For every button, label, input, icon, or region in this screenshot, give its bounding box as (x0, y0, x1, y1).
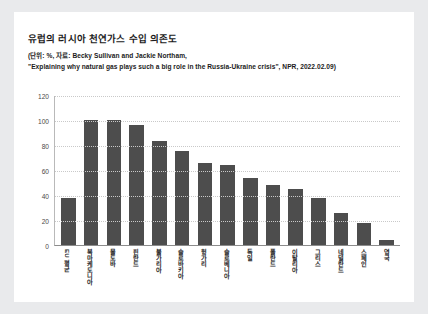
gridline (55, 121, 400, 122)
chart-plot-area: 020406080100120 EU 평균북마케도니아몰도바핀란드불가리아슬로바… (28, 96, 400, 288)
x-axis-label-slot: 헝가리 (193, 248, 216, 294)
bar[interactable] (266, 185, 281, 245)
x-axis-tick-label: 핀란드 (131, 248, 140, 267)
bar[interactable] (175, 151, 190, 245)
x-axis-labels: EU 평균북마케도니아몰도바핀란드불가리아슬로바키아헝가리슬로베니아독일폴란드이… (54, 248, 400, 294)
x-axis-tick-label: 헝가리 (200, 248, 209, 267)
x-axis-tick-label: 불가리아 (154, 248, 163, 273)
y-axis-tick: 0 (45, 243, 49, 250)
x-axis-label-slot: 영국 (375, 248, 398, 294)
chart-header: 유럽의 러시아 천연가스 수입 의존도 (단위: %, 자료: Becky Su… (28, 32, 400, 72)
y-axis-tick: 100 (38, 118, 49, 125)
x-axis-label-slot: 폴란드 (261, 248, 284, 294)
x-axis-label-slot: 독일 (238, 248, 261, 294)
bar[interactable] (107, 120, 122, 245)
bar[interactable] (198, 163, 213, 246)
y-axis-tick: 80 (42, 143, 49, 150)
gridline (55, 196, 400, 197)
x-axis-label-slot: 북마케도니아 (79, 248, 102, 294)
bar[interactable] (334, 213, 349, 246)
source-line-2: "Explaining why natural gas plays such a… (28, 62, 400, 73)
x-axis-tick-label: 영국 (382, 248, 391, 261)
x-axis-tick-label: 이탈리아 (291, 248, 300, 273)
bar[interactable] (288, 189, 303, 245)
page-title: 유럽의 러시아 천연가스 수입 의존도 (28, 32, 400, 45)
y-axis: 020406080100120 (28, 96, 52, 246)
y-axis-tick: 20 (42, 218, 49, 225)
bar[interactable] (220, 165, 235, 245)
gridline (55, 221, 400, 222)
gridline (55, 146, 400, 147)
x-axis-tick-label: 몰도바 (108, 248, 117, 267)
x-axis-tick-label: EU 평균 (63, 248, 72, 272)
bar[interactable] (84, 120, 99, 245)
bar[interactable] (357, 223, 372, 246)
gridline (55, 96, 400, 97)
x-axis-label-slot: 그리스 (307, 248, 330, 294)
x-axis-label-slot: 슬로바키아 (170, 248, 193, 294)
x-axis-label-slot: 불가리아 (147, 248, 170, 294)
x-axis-label-slot: EU 평균 (56, 248, 79, 294)
x-axis-label-slot: 몰도바 (102, 248, 125, 294)
x-axis-label-slot: 핀란드 (124, 248, 147, 294)
x-axis-label-slot: 슬로베니아 (216, 248, 239, 294)
chart-card: 유럽의 러시아 천연가스 수입 의존도 (단위: %, 자료: Becky Su… (14, 12, 414, 302)
x-axis-label-slot: 스페인 (352, 248, 375, 294)
source-line-1: (단위: %, 자료: Becky Sullivan and Jackie No… (28, 51, 400, 62)
x-axis-tick-label: 북마케도니아 (86, 248, 95, 286)
chart-source-note: (단위: %, 자료: Becky Sullivan and Jackie No… (28, 51, 400, 72)
bar[interactable] (129, 125, 144, 245)
y-axis-tick: 40 (42, 193, 49, 200)
x-axis-tick-label: 슬로베니아 (222, 248, 231, 280)
bar[interactable] (152, 141, 167, 245)
x-axis-tick-label: 네덜란드 (336, 248, 345, 273)
x-axis-tick-label: 스페인 (359, 248, 368, 267)
x-axis-label-slot: 이탈리아 (284, 248, 307, 294)
gridline (55, 171, 400, 172)
y-axis-tick: 60 (42, 168, 49, 175)
bar[interactable] (243, 178, 258, 246)
x-axis-tick-label: 슬로바키아 (177, 248, 186, 280)
x-axis-tick-label: 폴란드 (268, 248, 277, 267)
y-axis-tick: 120 (38, 93, 49, 100)
x-axis-tick-label: 독일 (245, 248, 254, 261)
plot-grid (54, 96, 400, 246)
x-axis-tick-label: 그리스 (314, 248, 323, 267)
x-axis-label-slot: 네덜란드 (330, 248, 353, 294)
bar[interactable] (379, 240, 394, 245)
